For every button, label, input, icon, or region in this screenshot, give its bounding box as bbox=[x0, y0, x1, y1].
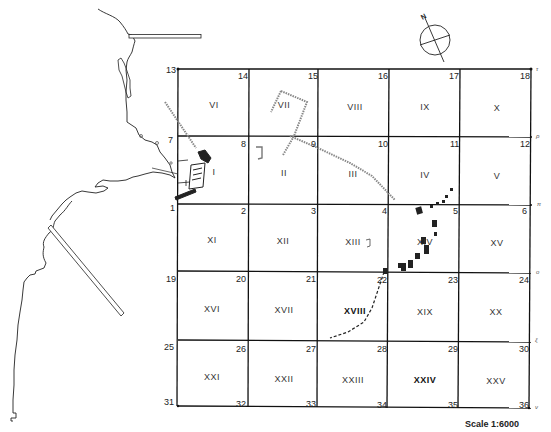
grid-cell-label: XVI bbox=[204, 304, 220, 314]
grid-point-number: 5 bbox=[453, 207, 458, 216]
grid-point-number: 4 bbox=[382, 207, 387, 216]
grid-cell-label: XXII bbox=[274, 374, 293, 384]
grid-point-number: 7 bbox=[168, 136, 173, 145]
grid-point-number: 11 bbox=[450, 140, 459, 149]
scale-label: Scale 1:6000 bbox=[465, 419, 519, 429]
grid-cell-label: XXIV bbox=[414, 375, 437, 385]
grid-point-number: 19 bbox=[166, 275, 176, 284]
harbour-grid-map bbox=[0, 0, 551, 432]
grid-cell-label: IV bbox=[420, 170, 430, 180]
grid-point-number: 8 bbox=[241, 140, 246, 149]
grid-point-number: 29 bbox=[448, 345, 458, 354]
grid-point-number: 34 bbox=[377, 401, 387, 410]
grid-cell-label: XII bbox=[277, 236, 290, 246]
grid-point-number: 35 bbox=[448, 401, 458, 410]
grid-point-number: 15 bbox=[308, 72, 318, 81]
grid-cell-label: I bbox=[212, 167, 215, 177]
grid-cell-label: XXIII bbox=[342, 375, 364, 385]
harbour-structures bbox=[152, 150, 211, 200]
grid-edge-mark: o bbox=[536, 269, 539, 275]
grid-point-number: 1 bbox=[170, 204, 175, 213]
grid-point-number: 13 bbox=[166, 66, 176, 75]
grid-edge-mark: ρ bbox=[536, 133, 539, 139]
grid-point-number: 14 bbox=[238, 72, 248, 81]
grid-point-number: 25 bbox=[164, 343, 174, 352]
coastline bbox=[11, 9, 175, 421]
grid-cell-label: XIV bbox=[417, 237, 433, 247]
grid-point-number: 23 bbox=[448, 276, 458, 285]
grid-cell-label: XI bbox=[207, 235, 217, 245]
ruins-cluster bbox=[383, 188, 453, 274]
grid-point-number: 31 bbox=[164, 398, 174, 407]
grid-cell-label: VI bbox=[209, 100, 219, 110]
grid-point-number: 24 bbox=[519, 276, 529, 285]
grid-cell-label: XVII bbox=[274, 305, 293, 315]
grid-point-number: 20 bbox=[236, 275, 246, 284]
grid-point-number: 16 bbox=[378, 72, 388, 81]
grid-cell-label: XV bbox=[490, 238, 503, 248]
grid-edge-mark: π bbox=[537, 201, 541, 207]
grid-cell-label: VII bbox=[278, 100, 291, 110]
grid-point-number: 22 bbox=[377, 276, 387, 285]
grid-point-number: 12 bbox=[520, 140, 530, 149]
grid-point-number: 18 bbox=[520, 72, 530, 81]
grid-point-number: 32 bbox=[236, 400, 246, 409]
island bbox=[118, 58, 131, 98]
grid-cell-label: XVIII bbox=[344, 306, 366, 316]
grid-cell-label: VIII bbox=[347, 102, 363, 112]
grid-cell-label: XXI bbox=[204, 372, 220, 382]
grid-cell-label: IX bbox=[420, 102, 430, 112]
grid-point-number: 26 bbox=[236, 345, 246, 354]
grid-point-number: 33 bbox=[306, 400, 316, 409]
grid-point-number: 3 bbox=[311, 207, 316, 216]
grid-point-number: 21 bbox=[306, 275, 316, 284]
grid-cell-label: XX bbox=[489, 307, 502, 317]
ancient-road bbox=[330, 272, 384, 338]
grid-point-number: 17 bbox=[449, 72, 459, 81]
grid-cell-label: XXV bbox=[486, 376, 506, 386]
grid-point-number: 30 bbox=[519, 345, 529, 354]
grid-cell-label: III bbox=[348, 169, 357, 179]
grid-point-number: 2 bbox=[241, 207, 246, 216]
grid-edge-mark: ξ bbox=[535, 337, 538, 343]
grid-point-number: 9 bbox=[311, 140, 316, 149]
grid-point-number: 6 bbox=[522, 207, 527, 216]
grid-cell-label: X bbox=[494, 103, 501, 113]
compass-rose-icon bbox=[420, 18, 450, 62]
grid-point-number: 28 bbox=[377, 345, 387, 354]
grid-point-number: 27 bbox=[306, 345, 316, 354]
grid-cell-label: XIX bbox=[417, 307, 433, 317]
grid-point-number: 36 bbox=[519, 401, 529, 410]
grid-cell-label: V bbox=[494, 171, 501, 181]
grid-cell-label: XIII bbox=[345, 237, 361, 247]
grid-edge-mark: ν bbox=[535, 404, 538, 410]
grid-edge-mark: τ bbox=[536, 66, 538, 72]
grid-point-number: 10 bbox=[378, 140, 388, 149]
grid-cell-label: II bbox=[281, 168, 287, 178]
